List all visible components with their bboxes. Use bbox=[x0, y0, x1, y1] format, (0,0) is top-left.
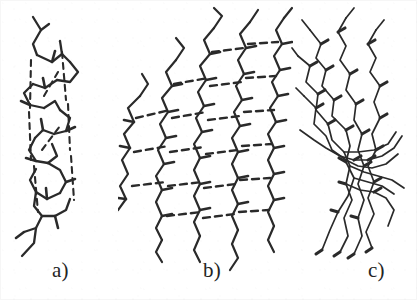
panel-c-caption: c) bbox=[368, 258, 385, 283]
coil-strands bbox=[292, 8, 404, 254]
hydrogen-bond-rungs bbox=[132, 42, 278, 218]
panel-c-random-coil bbox=[288, 0, 417, 300]
beta-sheet-diagram bbox=[118, 0, 293, 300]
panel-a-alpha-helix bbox=[0, 0, 120, 300]
panel-a-caption: a) bbox=[52, 258, 69, 283]
alpha-helix-diagram bbox=[0, 0, 120, 300]
carbonyl-stubs bbox=[118, 42, 292, 216]
random-coil-diagram bbox=[288, 0, 417, 300]
beta-strands bbox=[118, 8, 292, 270]
panel-b-beta-sheet bbox=[118, 0, 293, 300]
panel-b-caption: b) bbox=[203, 258, 221, 283]
figure-canvas: a) b) c) bbox=[0, 0, 417, 300]
